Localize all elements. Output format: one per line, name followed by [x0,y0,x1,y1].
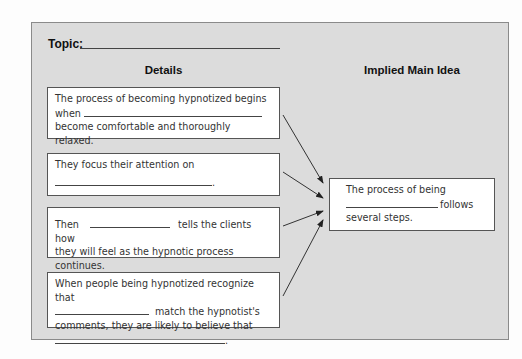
arrow-1 [283,115,323,183]
arrow-2 [283,172,323,198]
arrow-3 [283,211,323,226]
connector-arrows [0,0,522,359]
arrow-4 [283,220,323,296]
